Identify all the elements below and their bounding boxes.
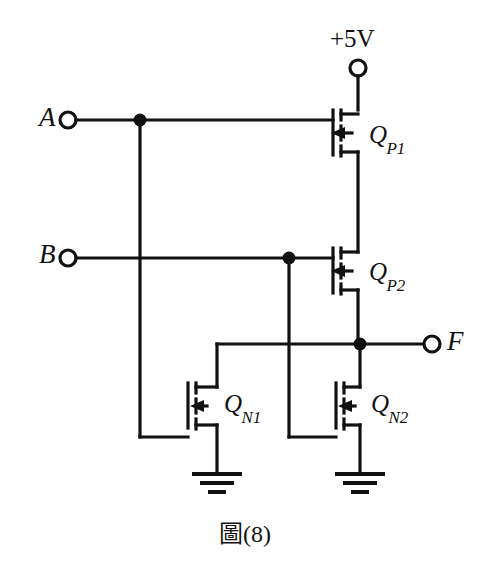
qn2-label-base: Q [371, 390, 389, 417]
ground-symbol-qn2 [337, 474, 383, 492]
circuit-schematic [0, 0, 490, 576]
qn2-label-subscript: N2 [388, 408, 408, 427]
qn1-label-subscript: N1 [241, 408, 261, 427]
qn2-label: QN2 [371, 391, 409, 421]
qp2-label-base: Q [369, 258, 387, 285]
qp2-label: QP2 [369, 259, 406, 289]
input-a-label: A [39, 104, 56, 131]
output-f-label: F [447, 328, 464, 355]
qp1-label: QP1 [369, 122, 406, 152]
supply-voltage-label: +5V [330, 26, 375, 51]
qp1-label-subscript: P1 [386, 139, 405, 158]
junction-dot-a-branch [134, 114, 147, 127]
input-b-label: B [39, 241, 56, 268]
input-b-terminal-circle [60, 250, 76, 266]
junction-dot-b-branch [283, 252, 296, 265]
qp2-label-subscript: P2 [386, 276, 405, 295]
qp1-label-base: Q [369, 121, 387, 148]
qn1-label: QN1 [224, 391, 262, 421]
qn1-label-base: Q [224, 390, 242, 417]
figure-caption: 圖(8) [0, 514, 490, 549]
junction-dot-output-f [354, 338, 367, 351]
ground-symbol-qn1 [194, 474, 240, 492]
supply-terminal-circle [350, 60, 366, 76]
figure-canvas: +5V A B F QP1 QP2 QN1 QN2 圖(8) [0, 0, 490, 576]
input-a-terminal-circle [60, 112, 76, 128]
output-f-terminal-circle [424, 336, 440, 352]
